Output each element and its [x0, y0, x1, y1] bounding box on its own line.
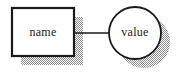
diagram-canvas: name value [0, 0, 181, 73]
name-node-label: name [29, 25, 56, 39]
value-node-label: value [121, 25, 149, 39]
diagram-svg: name value [0, 0, 181, 73]
